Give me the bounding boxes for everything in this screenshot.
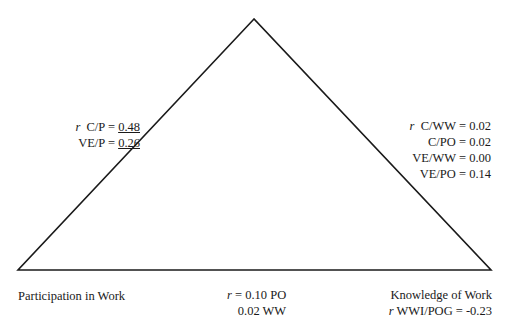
r-symbol: r (410, 119, 415, 133)
stat-name: C/P = (87, 120, 119, 134)
stat-value: 0.02 (469, 119, 491, 133)
stat-text: WWI/POG = -0.23 (394, 304, 492, 318)
stat-value: 0.26 (118, 136, 140, 150)
knowledge-of-work-block: Knowledge of Work r WWI/POG = -0.23 (389, 287, 492, 319)
stat-text: = 0.10 PO (232, 288, 286, 302)
r-symbol: r (75, 120, 80, 134)
right-edge-row-4: VE/PO = 0.14 (410, 166, 491, 182)
stat-name: C/PO = (428, 135, 469, 149)
stat-text: 0.02 WW (238, 304, 286, 318)
knowledge-of-work-stat: r WWI/POG = -0.23 (389, 303, 492, 319)
right-edge-row-3: VE/WW = 0.00 (410, 150, 491, 166)
bottom-edge-row-2: 0.02 WW (227, 303, 286, 319)
stat-value: 0.14 (469, 167, 491, 181)
bottom-edge-correlations: r = 0.10 PO 0.02 WW (227, 287, 286, 319)
stat-name: C/WW = (421, 119, 469, 133)
stat-value: 0.00 (469, 151, 491, 165)
stat-value: 0.02 (469, 135, 491, 149)
right-edge-correlations: r C/WW = 0.02 C/PO = 0.02 VE/WW = 0.00 V… (410, 118, 491, 182)
bottom-edge-row-1: r = 0.10 PO (227, 287, 286, 303)
left-edge-row-1: r C/P = 0.48 (34, 119, 140, 135)
stat-name: VE/PO = (420, 167, 469, 181)
knowledge-of-work-label: Knowledge of Work (389, 287, 492, 303)
stat-value: 0.48 (118, 120, 140, 134)
left-edge-row-2: VE/P = 0.26 (34, 135, 140, 151)
left-edge-correlations: r C/P = 0.48 VE/P = 0.26 (34, 119, 140, 151)
participation-in-work-label: Participation in Work (18, 288, 125, 304)
stat-name: VE/WW = (412, 151, 469, 165)
right-edge-row-2: C/PO = 0.02 (410, 134, 491, 150)
right-edge-row-1: r C/WW = 0.02 (410, 118, 491, 134)
stat-name: VE/P = (78, 136, 118, 150)
